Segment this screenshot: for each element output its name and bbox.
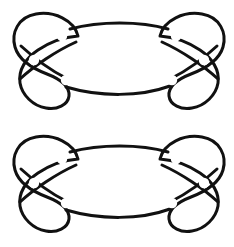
knot-strands-bottom bbox=[14, 136, 224, 231]
lens-upper-arc bbox=[70, 23, 168, 29]
lens-lower-arc bbox=[66, 86, 170, 94]
knot-figure-top bbox=[0, 0, 234, 124]
knot-figure-bottom-svg bbox=[0, 123, 234, 247]
right-outer-loop bbox=[160, 13, 224, 108]
knot-figure-top-svg bbox=[0, 0, 234, 124]
left-outer-loop bbox=[14, 13, 78, 108]
lens-lower-arc bbox=[66, 209, 170, 217]
knot-figure-bottom bbox=[0, 123, 234, 247]
left-outer-loop bbox=[14, 136, 78, 231]
right-outer-loop bbox=[160, 136, 224, 231]
lens-upper-arc bbox=[70, 146, 168, 152]
knot-strands-top bbox=[14, 13, 224, 108]
knot-diagram-container bbox=[0, 0, 234, 247]
